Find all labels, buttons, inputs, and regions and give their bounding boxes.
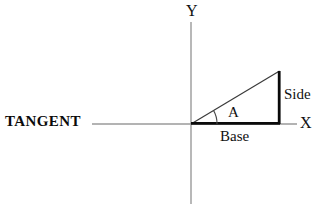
side-label: Side	[284, 87, 311, 102]
tangent-title-label: TANGENT	[5, 114, 81, 129]
base-label: Base	[220, 129, 249, 144]
x-axis-label: X	[300, 115, 312, 131]
tangent-triangle-figure	[0, 0, 318, 204]
figure-canvas: TANGENT Y X Side Base A	[0, 0, 318, 204]
y-axis-label: Y	[186, 3, 198, 19]
angle-label: A	[228, 105, 239, 120]
